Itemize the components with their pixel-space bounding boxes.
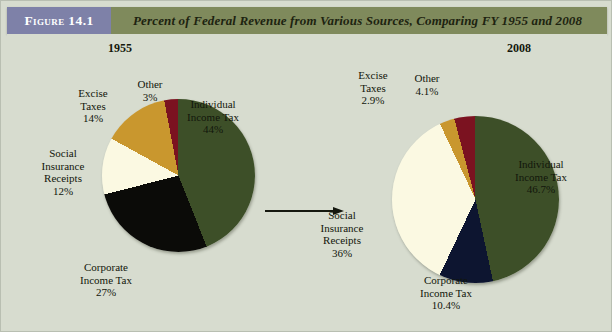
figure-header: Figure 14.1 Percent of Federal Revenue f… — [7, 7, 607, 34]
pie-label-1955-excise-taxes: Excise Taxes 14% — [61, 87, 125, 125]
pie-label-1955-individual-income-tax: Individual Income Tax 44% — [175, 98, 251, 136]
pie-title-2008: 2008 — [365, 41, 612, 56]
pie-panel-1955: 1955 Excise Taxes 14% Other 3% Individua… — [7, 34, 307, 327]
figure-container: Figure 14.1 Percent of Federal Revenue f… — [0, 0, 612, 332]
figure-body: 1955 Excise Taxes 14% Other 3% Individua… — [7, 34, 607, 327]
pie-label-1955-other: Other 3% — [124, 78, 176, 103]
pie-label-2008-individual-income-tax: Individual Income Tax 46.7% — [500, 158, 582, 196]
pie-label-2008-corporate-income-tax: Corporate Income Tax 10.4% — [403, 274, 489, 312]
pie-label-1955-corporate-income-tax: Corporate Income Tax 27% — [62, 261, 150, 299]
figure-number-tag: Figure 14.1 — [7, 7, 111, 34]
pie-label-2008-social-insurance-receipts: Social Insurance Receipts 36% — [305, 209, 379, 259]
pie-label-2008-other: Other 4.1% — [402, 72, 452, 97]
pie-label-2008-excise-taxes: Excise Taxes 2.9% — [345, 69, 401, 107]
pie-chart-2008 — [392, 116, 559, 283]
pie-panel-2008: 2008 Excise Taxes 2.9% Other 4.1% Indivi… — [299, 34, 607, 327]
figure-title: Percent of Federal Revenue from Various … — [111, 7, 607, 34]
pie-title-1955: 1955 — [0, 41, 270, 56]
pie-label-1955-social-insurance-receipts: Social Insurance Receipts 12% — [27, 147, 99, 197]
